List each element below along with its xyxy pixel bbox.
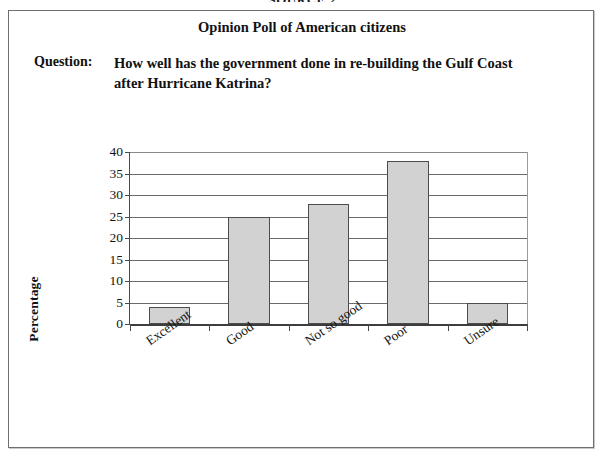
question-text: How well has the government done in re-b… [114,53,544,93]
y-axis-tick-mark [125,174,130,175]
y-axis-title: Percentage [26,244,42,374]
y-axis-tick-mark [125,303,130,304]
bar-poor[interactable] [387,161,428,324]
x-axis-tick-mark [289,324,290,331]
plot-area: 0510152025303540 [129,152,528,324]
gridline [130,195,527,196]
y-axis-tick-label: 25 [83,209,123,225]
y-axis-tick-label: 20 [83,230,123,246]
page-title: Opinion Poll of American citizens [9,19,595,36]
x-axis-tick-mark [209,324,210,331]
y-axis-tick-mark [125,238,130,239]
x-axis-tick-mark [527,324,528,331]
question-block: Question: How well has the government do… [34,53,574,93]
source-caption: SOURCE 2 [0,0,605,2]
y-axis-tick-label: 10 [83,273,123,289]
y-axis-tick-label: 30 [83,187,123,203]
y-axis-tick-label: 40 [83,144,123,160]
y-axis-tick-label: 0 [83,316,123,332]
poll-card: Opinion Poll of American citizens Questi… [8,10,594,448]
question-label: Question: [34,53,114,70]
x-axis-tick-mark [368,324,369,331]
gridline [130,174,527,175]
y-axis-tick-mark [125,324,130,325]
plot-inner [130,152,527,324]
y-axis-tick-label: 15 [83,252,123,268]
y-axis-tick-mark [125,260,130,261]
x-axis-tick-mark [130,324,131,331]
gridline [130,152,527,153]
y-axis-tick-label: 35 [83,166,123,182]
y-axis-tick-label: 5 [83,295,123,311]
x-axis-tick-mark [448,324,449,331]
bar-chart: Percentage 0510152025303540 ExcellentGoo… [9,131,595,431]
x-axis-label-poor: Poor [381,321,411,349]
y-axis-tick-mark [125,281,130,282]
y-axis-tick-mark [125,152,130,153]
y-axis-tick-mark [125,195,130,196]
y-axis-tick-mark [125,217,130,218]
bar-good[interactable] [228,217,269,325]
